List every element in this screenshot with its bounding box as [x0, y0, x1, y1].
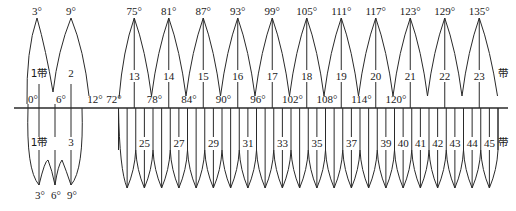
upper-right-zone-label: 23 [474, 70, 486, 82]
upper-right-zone-label: 18 [301, 70, 313, 82]
upper-right-cm-label: 135° [469, 5, 490, 17]
upper-right-cm-label: 111° [331, 5, 351, 17]
upper-right-zone-label: 19 [336, 70, 348, 82]
upper-left-cm-label: 3° [32, 5, 42, 17]
upper-right-cm-label: 105° [296, 5, 317, 17]
upper-right-boundary-label: 96° [250, 93, 265, 105]
upper-left-boundary-label: 0° [28, 93, 38, 105]
upper-right-cm-label: 93° [230, 5, 245, 17]
upper-right-zone-label: 22 [439, 70, 450, 82]
lower-zone-suffix-label: 带 [498, 136, 508, 148]
zone-division-diagram: 75°1381°1487°1593°1699°17105°18111°19117… [0, 0, 516, 211]
upper-left-cm-label: 9° [66, 5, 76, 17]
lower-left-cm-label: 3° [35, 189, 45, 201]
upper-right-cm-label: 129° [434, 5, 455, 17]
lower-right-zone-label: 45 [484, 137, 496, 149]
lower-right-zone-label: 35 [311, 137, 323, 149]
lower-right-zone-label: 33 [277, 137, 289, 149]
upper-right-zone-label: 21 [405, 70, 416, 82]
lower-right-zone-label: 29 [208, 137, 220, 149]
upper-right-6deg-zones: 75°1381°1487°1593°1699°17105°18111°19117… [106, 5, 497, 108]
lower-right-zone-label: 42 [432, 137, 443, 149]
upper-right-boundary-label: 114° [351, 93, 372, 105]
lower-right-zone-label: 43 [449, 137, 461, 149]
upper-zone-suffix-label: 带 [498, 67, 508, 79]
upper-right-zone-label: 17 [267, 70, 279, 82]
upper-right-boundary-label: 78° [147, 93, 162, 105]
lower-left-cm-label: 9° [67, 189, 77, 201]
upper-left-zone-lobe [27, 18, 53, 104]
upper-right-boundary-label: 102° [282, 93, 303, 105]
upper-left-zone-label: 2 [68, 67, 74, 79]
lower-right-zone-label: 41 [415, 137, 426, 149]
lower-right-3deg-zones: 2527293133353739404142434445 [119, 108, 499, 188]
upper-right-cm-label: 99° [265, 5, 280, 17]
upper-right-zone-label: 20 [370, 70, 382, 82]
lower-right-zone-label: 39 [380, 137, 392, 149]
lower-left-zone-label: 1带 [31, 136, 48, 148]
upper-right-zone-label: 16 [232, 70, 244, 82]
upper-left-zone-label: 1带 [31, 67, 48, 79]
upper-right-cm-label: 81° [161, 5, 176, 17]
upper-right-zone-label: 14 [163, 70, 175, 82]
upper-right-boundary-label: 90° [216, 93, 231, 105]
upper-right-zone-label: 13 [129, 70, 141, 82]
upper-right-boundary-label: 72° [106, 93, 121, 105]
upper-right-boundary-label: 120° [386, 93, 407, 105]
lower-right-zone-label: 31 [242, 137, 253, 149]
upper-left-boundary-label: 6° [56, 93, 66, 105]
upper-right-boundary-label: 84° [181, 93, 196, 105]
upper-right-zone-lobe [119, 18, 152, 98]
lower-right-zone-label: 25 [139, 137, 151, 149]
lower-right-zone-label: 40 [398, 137, 410, 149]
lower-right-zone-label: 44 [467, 137, 479, 149]
lower-right-zone-label: 27 [173, 137, 185, 149]
upper-right-zone-label: 15 [198, 70, 210, 82]
lower-right-zone-label: 37 [346, 137, 358, 149]
lower-left-zone-label: 3 [68, 136, 74, 148]
lower-left-cm-label: 6° [51, 189, 61, 201]
upper-right-cm-label: 75° [127, 5, 142, 17]
upper-left-boundary-label: 12° [87, 93, 102, 105]
upper-right-cm-label: 87° [196, 5, 211, 17]
upper-right-cm-label: 117° [366, 5, 387, 17]
upper-right-cm-label: 123° [400, 5, 421, 17]
upper-right-boundary-label: 108° [317, 93, 338, 105]
